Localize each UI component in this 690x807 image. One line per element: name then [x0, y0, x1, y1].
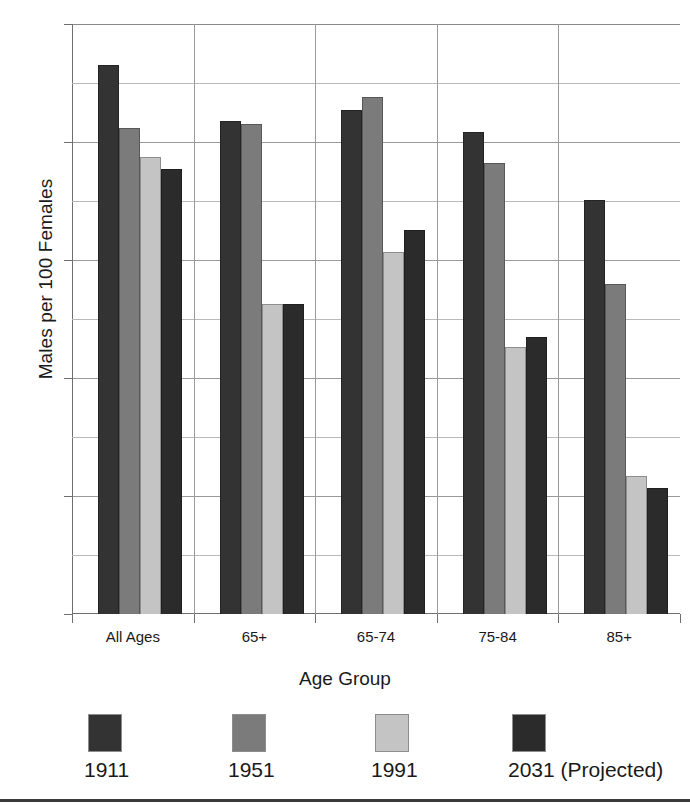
- y-tick-mark: [64, 260, 73, 261]
- x-tick-mark: [437, 614, 438, 623]
- bar: [404, 230, 425, 614]
- bar: [262, 304, 283, 614]
- bar: [283, 304, 304, 614]
- bar-chart: Males per 100 Females 12010080604020 All…: [0, 0, 690, 807]
- x-category-label: 85+: [549, 628, 689, 645]
- bar: [362, 97, 383, 614]
- x-category-label: All Ages: [63, 628, 203, 645]
- bar: [584, 200, 605, 614]
- category-separator: [437, 24, 438, 614]
- bar: [161, 169, 182, 614]
- legend-label: 1911: [84, 758, 129, 782]
- bar: [241, 124, 262, 614]
- bar: [647, 488, 668, 614]
- x-category-label: 75-84: [428, 628, 568, 645]
- bottom-divider: [0, 799, 690, 802]
- bar: [341, 110, 362, 614]
- legend-swatch: [232, 714, 266, 752]
- category-separator: [194, 24, 195, 614]
- bar: [383, 252, 404, 614]
- bar: [605, 284, 626, 614]
- legend-label: 1991: [371, 758, 418, 782]
- legend-swatch: [375, 714, 409, 752]
- y-tick-mark: [64, 378, 73, 379]
- legend-label: 2031 (Projected): [508, 758, 663, 782]
- gridline-minor: [72, 83, 680, 84]
- x-tick-mark: [558, 614, 559, 623]
- legend-swatch: [512, 714, 546, 752]
- plot-area: 12010080604020 All Ages65+65-7475-8485+: [72, 24, 680, 614]
- legend-label: 1951: [228, 758, 275, 782]
- y-tick-mark: [64, 142, 73, 143]
- bar: [463, 132, 484, 614]
- x-tick-mark: [194, 614, 195, 623]
- category-separator: [558, 24, 559, 614]
- bar: [98, 65, 119, 614]
- bar: [484, 163, 505, 614]
- gridline-major: [72, 24, 680, 25]
- bar: [119, 128, 140, 614]
- x-category-label: 65-74: [306, 628, 446, 645]
- bar: [526, 337, 547, 614]
- chart-legend: 1911195119912031 (Projected): [0, 714, 690, 794]
- x-tick-mark: [315, 614, 316, 623]
- category-separator: [315, 24, 316, 614]
- y-axis-title: Males per 100 Females: [35, 129, 57, 429]
- x-category-label: 65+: [184, 628, 324, 645]
- x-tick-mark: [72, 614, 73, 623]
- x-tick-mark: [680, 614, 681, 623]
- bar: [626, 476, 647, 614]
- bar: [505, 347, 526, 614]
- legend-swatch: [88, 714, 122, 752]
- bar: [220, 121, 241, 614]
- x-axis-title: Age Group: [0, 668, 690, 690]
- y-tick-mark: [64, 496, 73, 497]
- y-tick-mark: [64, 24, 73, 25]
- bar: [140, 157, 161, 614]
